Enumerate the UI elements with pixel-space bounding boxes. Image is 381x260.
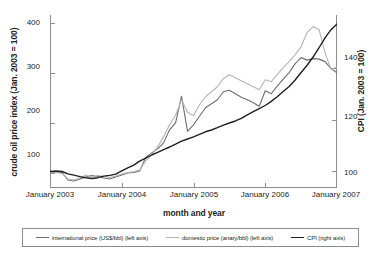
x-axis-ticks: January 2003 January 2004 January 2005 J…: [0, 190, 381, 206]
plot-svg: [50, 15, 337, 188]
legend-swatch-cpi: [291, 237, 304, 238]
legend-item-domestic: domestic price (anary/bbl) (left axis): [166, 235, 273, 241]
x-tick-january-2007: January 2007: [301, 190, 371, 199]
series-lines: [50, 24, 337, 181]
legend-item-international: international price (US$/bbl) (left axis…: [36, 235, 148, 241]
legend-item-cpi: CPI (right axis): [291, 235, 345, 241]
x-tick-january-2006: January 2006: [230, 190, 300, 199]
chart-legend: international price (US$/bbl) (left axis…: [22, 228, 359, 247]
y-tick-right-140: 140: [344, 53, 370, 62]
y-tick-right-100: 100: [344, 168, 370, 177]
x-tick-january-2004: January 2004: [87, 190, 157, 199]
tick-marks: [50, 24, 337, 189]
y-axis-left-ticks: 400 300 200 100: [14, 0, 40, 260]
series-line-cpi: [50, 24, 337, 178]
y-axis-right-ticks: 140 120 100: [344, 0, 370, 260]
y-tick-left-400: 400: [14, 18, 40, 27]
x-tick-january-2005: January 2005: [159, 190, 229, 199]
x-tick-january-2003: January 2003: [15, 190, 85, 199]
y-tick-left-100: 100: [14, 150, 40, 159]
x-axis-title: month and year: [50, 208, 338, 218]
chart-figure: crude oil price index (Jan. 2003 = 100) …: [0, 0, 381, 260]
series-line-international: [50, 58, 337, 181]
plot-area: [50, 15, 337, 188]
legend-label-cpi: CPI (right axis): [307, 235, 345, 241]
legend-label-international: international price (US$/bbl) (left axis…: [52, 235, 148, 241]
y-tick-right-120: 120: [344, 112, 370, 121]
legend-swatch-domestic: [166, 237, 179, 238]
y-tick-left-300: 300: [14, 62, 40, 71]
y-tick-left-200: 200: [14, 106, 40, 115]
legend-label-domestic: domestic price (anary/bbl) (left axis): [182, 235, 273, 241]
series-line-domestic: [50, 27, 337, 180]
legend-swatch-international: [36, 237, 49, 238]
axis-lines: [50, 15, 337, 188]
